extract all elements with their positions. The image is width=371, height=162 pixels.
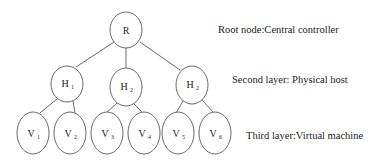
node-vm-3: V 3 [91, 112, 123, 154]
edge-h2-v4 [133, 103, 143, 113]
layer-label-root: Root node:Central controller [218, 24, 339, 35]
layer-label-third: Third layer:Virtual machine [246, 130, 363, 141]
vm-5-sub: 5 [182, 134, 185, 140]
vm-4-sub: 4 [148, 134, 151, 140]
edge-h3-v5 [176, 101, 183, 113]
node-host-1: H 1 [51, 66, 83, 102]
vm-6-label: V [209, 128, 217, 139]
layer-label-second: Second layer: Physical host [232, 74, 348, 85]
edge-h3-v6 [202, 100, 214, 113]
vm-2-label: V [64, 128, 72, 139]
edge-r-h1 [76, 42, 114, 67]
vm-1-label: V [27, 128, 35, 139]
node-vm-2: V 2 [54, 112, 86, 154]
vm-6-sub: 6 [219, 134, 222, 140]
node-vm-4: V 4 [128, 112, 160, 154]
host-3-label: H [186, 79, 193, 90]
edge-h2-v3 [106, 103, 117, 113]
edge-h1-v1 [40, 99, 57, 113]
node-root-label: R [123, 25, 130, 36]
vm-2-sub: 2 [74, 134, 77, 140]
vm-5-label: V [172, 128, 180, 139]
node-vm-1: V 1 [17, 112, 49, 154]
host-2-sub: 2 [130, 87, 133, 93]
host-1-label: H [61, 78, 68, 89]
vm-4-label: V [138, 128, 146, 139]
node-vm-5: V 5 [162, 112, 194, 154]
vm-3-label: V [101, 128, 109, 139]
node-vm-6: V 6 [199, 112, 231, 154]
node-root: R [110, 12, 142, 48]
host-2-label: H [120, 81, 127, 92]
vm-3-sub: 3 [111, 134, 114, 140]
node-host-3: H 2 [176, 66, 208, 104]
host-1-sub: 1 [71, 84, 74, 90]
vm-1-sub: 1 [37, 134, 40, 140]
node-host-2: H 2 [110, 68, 142, 106]
edge-h1-v2 [73, 101, 75, 113]
host-3-sub: 2 [196, 85, 199, 91]
edge-r-h3 [140, 42, 180, 70]
